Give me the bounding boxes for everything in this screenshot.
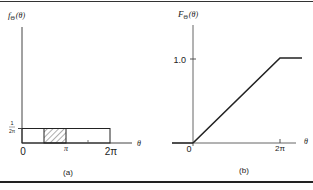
ylabel-b-sub: Θ — [184, 14, 189, 20]
xtick-a-2pi: 2π — [105, 146, 118, 157]
panel-b: FΘ(θ) 1.0 0 2π θ (b) — [172, 9, 308, 175]
xlabel-b: θ — [304, 137, 308, 146]
ylabel-a-sub: Θ — [11, 15, 16, 21]
xlabel-a: θ — [137, 139, 141, 148]
ytick-a-num: 1 — [10, 120, 13, 126]
xtick-b-2pi: 2π — [275, 144, 285, 153]
xtick-b-0: 0 — [186, 144, 191, 154]
shaded-region — [44, 129, 66, 144]
caption-a: (a) — [63, 168, 73, 177]
xtick-a-0: 0 — [20, 146, 26, 157]
ylabel-b-arg: (θ) — [189, 10, 199, 19]
panel-a: fΘ(θ) 1 2π 0 π 2π θ (a) — [8, 10, 141, 177]
ylabel-a-arg: (θ) — [16, 11, 26, 20]
ytick-b-1: 1.0 — [173, 55, 186, 65]
svg-text:fΘ(θ): fΘ(θ) — [8, 10, 25, 21]
figure: fΘ(θ) 1 2π 0 π 2π θ (a) FΘ(θ) 1.0 — [0, 0, 313, 190]
xtick-a-pi: π — [64, 144, 69, 153]
svg-text:FΘ(θ): FΘ(θ) — [177, 9, 198, 20]
cdf-line — [193, 58, 302, 143]
caption-b: (b) — [239, 166, 249, 175]
ytick-a-den: 2π — [9, 128, 16, 134]
